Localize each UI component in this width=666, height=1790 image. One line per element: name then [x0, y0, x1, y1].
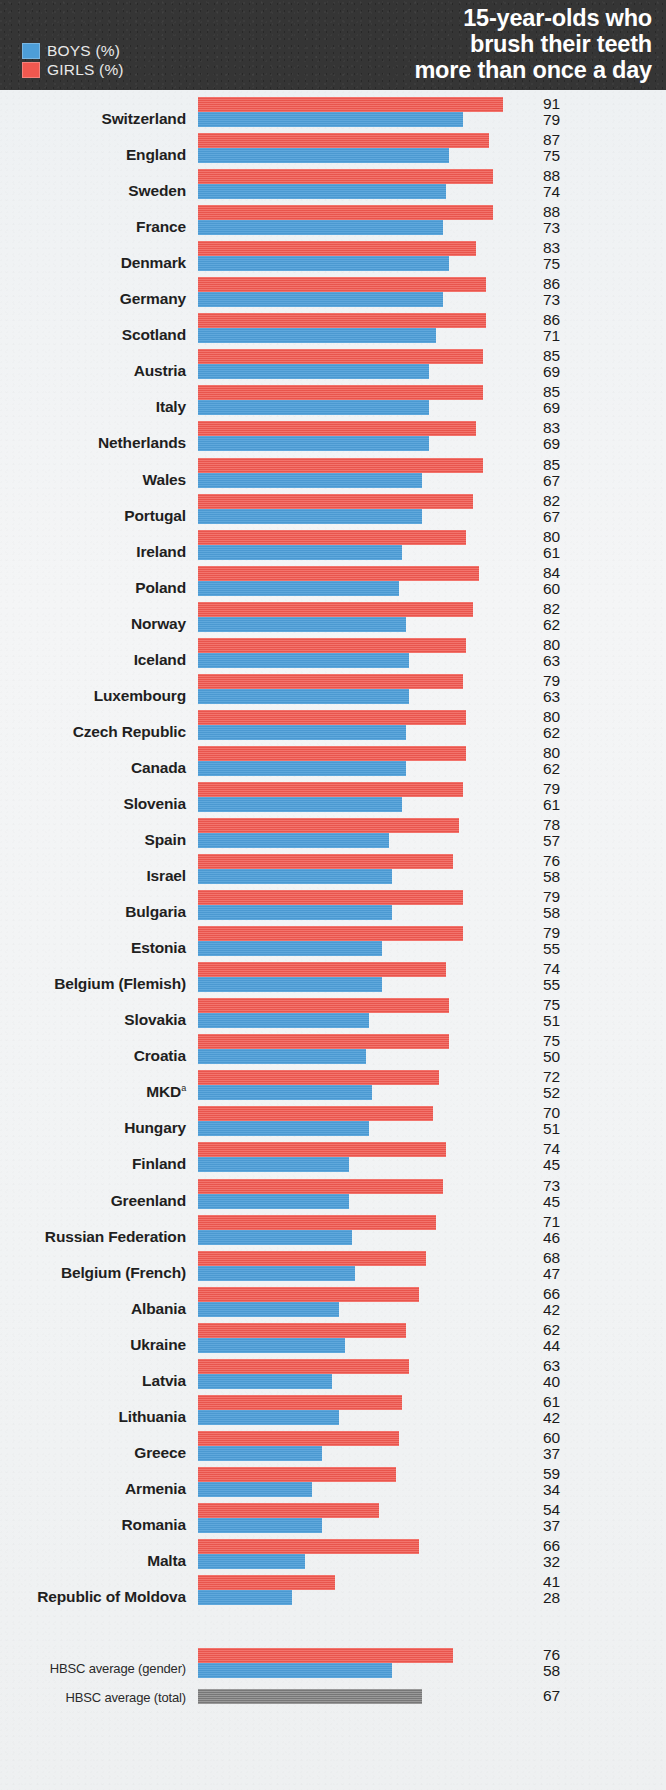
bar-boys: [198, 1049, 366, 1064]
chart-header: BOYS (%) GIRLS (%) 15-year-olds who brus…: [0, 0, 666, 90]
value-boys: 61: [500, 797, 560, 813]
bar-boys: [198, 400, 429, 415]
value-girls: 80: [500, 529, 560, 545]
country-label: Ireland: [0, 543, 186, 561]
value-total: 67: [500, 1688, 560, 1704]
bar-girls: [198, 998, 449, 1013]
value-pair: 7550: [500, 1033, 560, 1065]
value-pair: 7345: [500, 1178, 560, 1210]
bar-boys: [198, 869, 392, 884]
value-pair: 7955: [500, 925, 560, 957]
legend-item-girls: GIRLS (%): [22, 60, 124, 79]
country-label: Luxembourg: [0, 687, 186, 705]
value-girls: 85: [500, 348, 560, 364]
value-girls: 86: [500, 276, 560, 292]
bar-boys: [198, 1554, 305, 1569]
table-row: England8775: [0, 133, 666, 169]
value-girls: 70: [500, 1105, 560, 1121]
country-label: Slovakia: [0, 1011, 186, 1029]
value-boys: 34: [500, 1482, 560, 1498]
bar-girls: [198, 566, 479, 581]
value-boys: 45: [500, 1157, 560, 1173]
country-label: Republic of Moldova: [0, 1588, 186, 1606]
bar-boys: [198, 905, 392, 920]
bar-girls: [198, 1287, 419, 1302]
value-boys: 51: [500, 1121, 560, 1137]
table-row: Portugal8267: [0, 494, 666, 530]
country-label: Greece: [0, 1444, 186, 1462]
value-boys: 63: [500, 653, 560, 669]
value-pair: 8267: [500, 493, 560, 525]
table-row: Republic of Moldova4128: [0, 1575, 666, 1611]
bar-girls: [198, 1034, 449, 1049]
country-label: Czech Republic: [0, 723, 186, 741]
value-boys: 73: [500, 292, 560, 308]
value-pair: 7455: [500, 961, 560, 993]
value-pair: 7445: [500, 1141, 560, 1173]
table-row: Italy8569: [0, 385, 666, 421]
value-girls: 72: [500, 1069, 560, 1085]
bar-boys: [198, 436, 429, 451]
value-pair: 8569: [500, 384, 560, 416]
bar-girls: [198, 1359, 409, 1374]
value-girls: 76: [500, 853, 560, 869]
country-label: Croatia: [0, 1047, 186, 1065]
value-girls: 80: [500, 745, 560, 761]
country-label: Russian Federation: [0, 1228, 186, 1246]
bar-boys: [198, 725, 406, 740]
value-girls: 83: [500, 240, 560, 256]
value-pair: 8673: [500, 276, 560, 308]
table-row: Croatia7550: [0, 1034, 666, 1070]
value-girls: 79: [500, 673, 560, 689]
bar-boys: [198, 1121, 369, 1136]
average-label: HBSC average (gender): [0, 1661, 186, 1676]
bar-girls: [198, 818, 459, 833]
value-girls: 60: [500, 1430, 560, 1446]
value-girls: 87: [500, 132, 560, 148]
country-label: Austria: [0, 362, 186, 380]
value-boys: 45: [500, 1194, 560, 1210]
value-boys: 40: [500, 1374, 560, 1390]
table-row: Belgium (French)6847: [0, 1251, 666, 1287]
value-girls: 88: [500, 168, 560, 184]
value-boys: 62: [500, 725, 560, 741]
country-label: Sweden: [0, 182, 186, 200]
bar-boys: [198, 1338, 345, 1353]
table-row: Belgium (Flemish)7455: [0, 962, 666, 998]
bar-boys: [198, 1302, 339, 1317]
value-pair: 5437: [500, 1502, 560, 1534]
bar-girls: [198, 169, 493, 184]
country-label: Netherlands: [0, 434, 186, 452]
value-boys: 42: [500, 1302, 560, 1318]
bar-girls: [198, 746, 466, 761]
bar-boys: [198, 1590, 292, 1605]
value-boys: 55: [500, 977, 560, 993]
country-label: Italy: [0, 398, 186, 416]
value-boys: 61: [500, 545, 560, 561]
title-line-1: 15-year-olds who: [414, 5, 652, 31]
bar-girls: [198, 638, 466, 653]
bar-girls: [198, 97, 503, 112]
bar-girls: [198, 133, 489, 148]
value-girls: 54: [500, 1502, 560, 1518]
value-girls: 62: [500, 1322, 560, 1338]
value-girls: 83: [500, 420, 560, 436]
value-girls: 75: [500, 997, 560, 1013]
table-row: Netherlands8369: [0, 421, 666, 457]
value-girls: 74: [500, 1141, 560, 1157]
value-boys: 58: [500, 905, 560, 921]
table-row: Russian Federation7146: [0, 1215, 666, 1251]
country-label: Lithuania: [0, 1408, 186, 1426]
value-boys: 58: [500, 1663, 560, 1679]
value-boys: 75: [500, 256, 560, 272]
value-boys: 62: [500, 761, 560, 777]
value-pair: 6142: [500, 1394, 560, 1426]
bar-girls: [198, 241, 476, 256]
value-girls: 68: [500, 1250, 560, 1266]
value-girls: 66: [500, 1286, 560, 1302]
bar-girls: [198, 1215, 436, 1230]
country-label: France: [0, 218, 186, 236]
value-pair: 7051: [500, 1105, 560, 1137]
value-boys: 67: [500, 473, 560, 489]
country-label: Norway: [0, 615, 186, 633]
